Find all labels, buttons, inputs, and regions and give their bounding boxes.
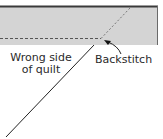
wrong-side-label-line2: of quilt — [3, 64, 79, 76]
wrong-side-label: Wrong side of quilt — [3, 52, 79, 76]
quilt-layer — [0, 6, 158, 45]
backstitch-label: Backstitch — [95, 54, 152, 66]
